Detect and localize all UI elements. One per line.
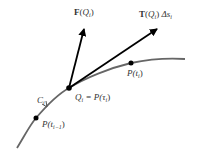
- q-label: Qi = P(τi): [75, 93, 110, 103]
- diagram-canvas: [0, 0, 199, 156]
- point-p-ti-minus-1: [34, 116, 39, 121]
- p-ti-minus-1-label: P(ti−1): [42, 120, 65, 130]
- p-ti-label: P(ti): [127, 69, 143, 79]
- force-label: F(Qi): [74, 8, 94, 18]
- tangent-label: T(Qi) Δsi: [139, 10, 172, 20]
- point-q: [66, 85, 72, 91]
- curve-label: Ci: [37, 96, 45, 106]
- point-p-ti: [129, 61, 134, 66]
- line-integral-diagram: F(Qi) T(Qi) Δsi Qi = P(τi) P(ti) P(ti−1)…: [0, 0, 199, 156]
